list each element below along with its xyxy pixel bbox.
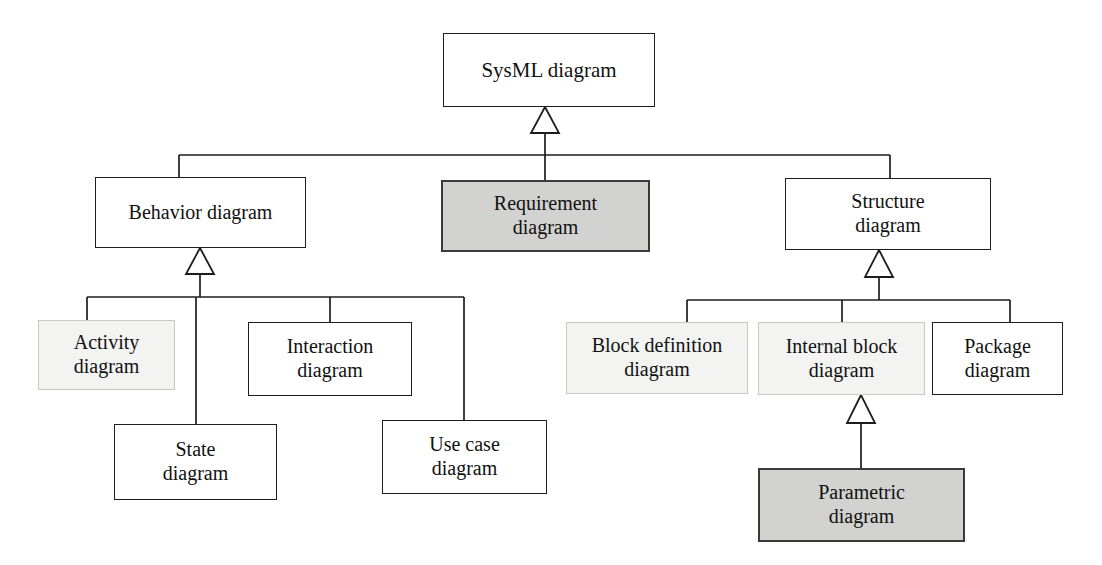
edge-sysml-children (179, 107, 890, 180)
node-state-diagram[interactable]: State diagram (114, 424, 277, 500)
node-label: Parametric diagram (814, 481, 909, 528)
node-sysml-diagram[interactable]: SysML diagram (443, 33, 655, 107)
node-block-definition-diagram[interactable]: Block definition diagram (566, 322, 748, 394)
node-structure-diagram[interactable]: Structure diagram (785, 178, 991, 250)
node-package-diagram[interactable]: Package diagram (932, 322, 1063, 395)
edge-structure-children (687, 250, 1010, 322)
generalization-arrow-icon (865, 250, 893, 277)
node-label: Activity diagram (70, 331, 144, 378)
generalization-arrow-icon (847, 395, 875, 423)
node-label: Internal block diagram (782, 335, 902, 382)
node-behavior-diagram[interactable]: Behavior diagram (95, 177, 306, 248)
node-requirement-diagram[interactable]: Requirement diagram (441, 180, 650, 252)
node-label: SysML diagram (477, 58, 620, 83)
node-use-case-diagram[interactable]: Use case diagram (382, 420, 547, 494)
node-label: Requirement diagram (490, 192, 601, 239)
node-internal-block-diagram[interactable]: Internal block diagram (758, 322, 925, 395)
node-label: Package diagram (960, 335, 1035, 382)
node-label: Use case diagram (425, 433, 504, 480)
sysml-diagram-canvas: SysML diagram Behavior diagram Requireme… (0, 0, 1102, 565)
node-label: Block definition diagram (588, 334, 727, 381)
node-label: Interaction diagram (283, 335, 378, 382)
generalization-arrow-icon (186, 248, 214, 274)
node-label: Behavior diagram (125, 201, 277, 225)
node-activity-diagram[interactable]: Activity diagram (38, 320, 175, 390)
node-label: State diagram (159, 438, 233, 485)
edge-internalblock-parametric (847, 395, 875, 468)
node-interaction-diagram[interactable]: Interaction diagram (248, 322, 412, 396)
generalization-arrow-icon (531, 107, 559, 133)
node-label: Structure diagram (847, 190, 928, 237)
node-parametric-diagram[interactable]: Parametric diagram (758, 468, 965, 542)
